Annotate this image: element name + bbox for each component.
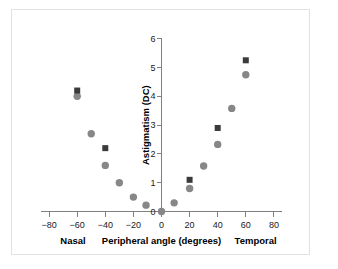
data-point-square xyxy=(74,88,80,94)
data-point-square xyxy=(187,177,193,183)
data-point-square xyxy=(102,145,108,151)
y-tick-label: 5 xyxy=(146,63,156,73)
y-tick-label: 1 xyxy=(146,178,156,188)
data-point-circle xyxy=(158,208,165,215)
data-point-circle xyxy=(200,162,207,169)
data-point-square xyxy=(215,125,221,131)
axes-layer xyxy=(41,39,282,217)
y-tick-label: 0 xyxy=(146,207,156,217)
data-point-circle xyxy=(170,199,177,206)
y-axis-title: Astigmatism (DC) xyxy=(140,85,151,165)
data-point-circle xyxy=(242,71,249,78)
data-point-square xyxy=(243,57,249,63)
figure-panel: −80−60−40−200204060800123456 Peripheral … xyxy=(11,9,310,255)
y-tick-label: 6 xyxy=(146,34,156,44)
data-point-circle xyxy=(228,105,235,112)
data-point-circle xyxy=(186,185,193,192)
data-point-circle xyxy=(130,193,137,200)
data-point-circle xyxy=(102,162,109,169)
data-point-circle xyxy=(116,179,123,186)
region-label-temporal: Temporal xyxy=(235,235,277,246)
x-tick-label: 80 xyxy=(254,220,294,230)
data-point-circle xyxy=(74,93,81,100)
data-point-circle xyxy=(214,141,221,148)
data-point-circle xyxy=(88,130,95,137)
region-label-nasal: Nasal xyxy=(60,235,85,246)
